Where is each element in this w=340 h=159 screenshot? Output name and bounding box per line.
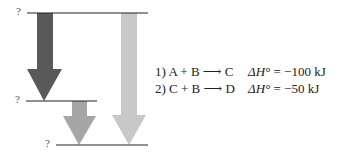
reaction-1-dh-symbol: ΔH°	[248, 64, 270, 79]
reaction-2-text: C + B ⟶ D	[169, 81, 235, 96]
bottom-level-label: ?	[45, 137, 50, 149]
reaction-list: 1) A + B ⟶ C ΔH° = −100 kJ 2) C + B ⟶ D …	[155, 63, 326, 97]
enthalpy-diagram: ? ? ? 1) A + B ⟶ C ΔH° = −100 kJ 2) C + …	[0, 0, 340, 159]
reaction-1-equation: 1) A + B ⟶ C	[155, 63, 248, 80]
middle-level-label: ?	[15, 93, 20, 105]
reaction-1-dh-value: = −100 kJ	[273, 64, 325, 79]
reaction-2-number: 2)	[155, 81, 166, 96]
reaction-2-equation: 2) C + B ⟶ D	[155, 80, 248, 97]
reaction-2-dh-symbol: ΔH°	[248, 81, 270, 96]
top-level-label: ?	[16, 5, 21, 17]
reaction-1-arrow	[27, 13, 62, 101]
reaction-2-arrow	[63, 101, 96, 145]
reaction-1: 1) A + B ⟶ C ΔH° = −100 kJ	[155, 63, 326, 80]
reaction-2: 2) C + B ⟶ D ΔH° = −50 kJ	[155, 80, 326, 97]
reaction-1-enthalpy: ΔH° = −100 kJ	[248, 63, 326, 80]
overall-arrow	[112, 13, 146, 145]
reaction-1-text: A + B ⟶ C	[168, 64, 233, 79]
reaction-1-number: 1)	[155, 64, 166, 79]
reaction-2-dh-value: = −50 kJ	[273, 81, 319, 96]
reaction-2-enthalpy: ΔH° = −50 kJ	[248, 80, 319, 97]
